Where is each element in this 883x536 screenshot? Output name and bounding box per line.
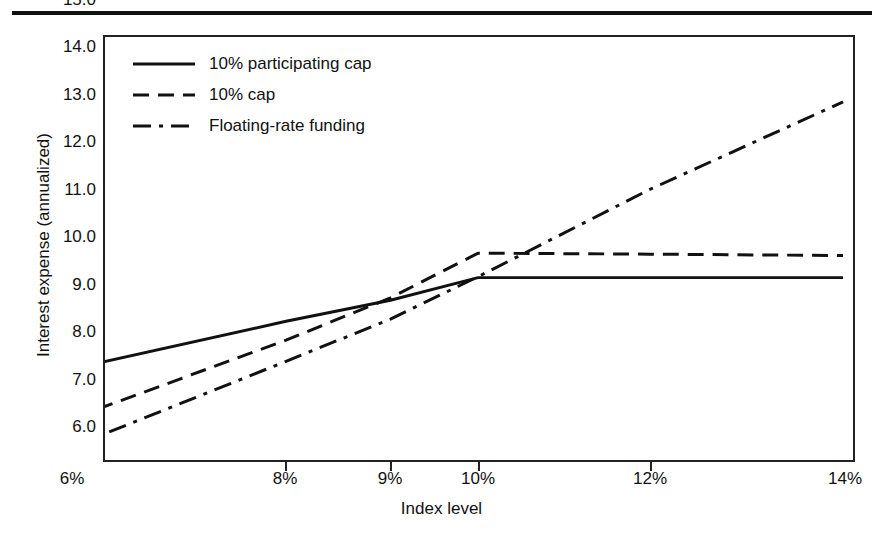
y-axis-tick-labels: 15.014.013.012.011.010.09.08.07.06.0 xyxy=(20,0,96,427)
x-tick-mark xyxy=(285,462,287,471)
y-tick-label: 9.0 xyxy=(26,276,96,293)
legend-line-swatch xyxy=(133,57,195,71)
series-line xyxy=(105,278,843,369)
x-tick-mark xyxy=(390,462,392,471)
y-tick-label: 6.0 xyxy=(26,418,96,435)
y-tick-label: 7.0 xyxy=(26,371,96,388)
x-tick-label: 9% xyxy=(378,470,403,487)
y-tick-label: 8.0 xyxy=(26,323,96,340)
x-tick-label: 14% xyxy=(828,470,862,487)
y-tick-label: 15.0 xyxy=(26,0,96,8)
legend-item-label: Floating-rate funding xyxy=(209,116,365,136)
x-tick-label: 8% xyxy=(273,470,298,487)
x-axis-title: Index level xyxy=(0,499,883,519)
figure-container: Interest expense (annualized) Index leve… xyxy=(0,0,883,536)
legend-item[interactable]: 10% participating cap xyxy=(133,48,372,79)
chart-legend: 10% participating cap10% capFloating-rat… xyxy=(133,48,372,141)
y-tick-label: 10.0 xyxy=(26,228,96,245)
legend-item-label: 10% participating cap xyxy=(209,54,372,74)
x-tick-label: 6% xyxy=(60,470,85,487)
legend-item[interactable]: Floating-rate funding xyxy=(133,110,372,141)
legend-line-swatch xyxy=(133,88,195,102)
x-tick-label: 10% xyxy=(461,470,495,487)
legend-line-swatch xyxy=(133,119,195,133)
chart-title-cropped xyxy=(0,0,883,8)
y-tick-label: 14.0 xyxy=(26,38,96,55)
y-tick-label: 11.0 xyxy=(26,181,96,198)
legend-item-label: 10% cap xyxy=(209,85,275,105)
x-tick-mark xyxy=(650,462,652,471)
x-tick-label: 12% xyxy=(633,470,667,487)
x-tick-mark xyxy=(478,462,480,471)
series-line xyxy=(105,102,843,446)
title-divider-rule xyxy=(12,11,872,15)
y-tick-label: 12.0 xyxy=(26,133,96,150)
y-tick-label: 13.0 xyxy=(26,86,96,103)
legend-item[interactable]: 10% cap xyxy=(133,79,372,110)
